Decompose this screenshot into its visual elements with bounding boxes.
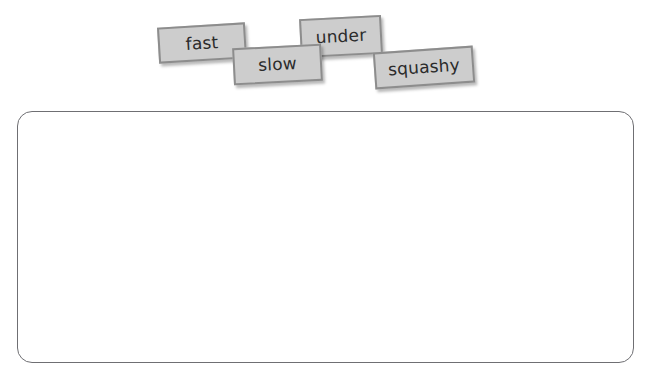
word-tile-bank: fast under squashy slow (0, 0, 646, 100)
word-tile-squashy[interactable]: squashy (373, 46, 475, 90)
word-tile-slow[interactable]: slow (232, 44, 323, 86)
worksheet-page: fast under squashy slow (0, 0, 646, 377)
answer-box[interactable] (17, 111, 634, 363)
